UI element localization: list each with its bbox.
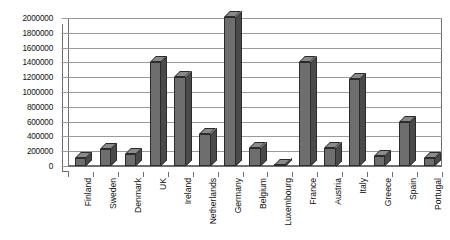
y-axis-tick-label: 1000000 bbox=[23, 88, 53, 97]
bar-front-face bbox=[125, 154, 136, 166]
bar bbox=[249, 142, 260, 166]
x-axis-tick bbox=[118, 172, 119, 177]
bar-side-face bbox=[311, 56, 317, 166]
y-axis-tick-label: 2000000 bbox=[23, 14, 53, 23]
y-axis-tick-label: 1800000 bbox=[23, 28, 53, 37]
bar-front-face bbox=[150, 62, 161, 166]
x-axis-label-finland: Finland bbox=[84, 178, 93, 206]
bar bbox=[150, 56, 161, 166]
y-axis-tick-label: 800000 bbox=[27, 102, 53, 111]
x-axis-tick bbox=[218, 172, 219, 177]
x-axis-label-netherlands: Netherlands bbox=[209, 178, 218, 224]
x-axis-label-uk: UK bbox=[159, 178, 168, 190]
x-axis-label-ireland: Ireland bbox=[184, 178, 193, 204]
bar-front-face bbox=[75, 158, 86, 166]
bar-side-face bbox=[161, 56, 167, 166]
y-axis-tick-label: 600000 bbox=[27, 117, 53, 126]
y-axis-tick-label: 200000 bbox=[27, 147, 53, 156]
bars-layer bbox=[62, 18, 442, 172]
x-axis-tick bbox=[442, 172, 443, 177]
bar-side-face bbox=[186, 71, 192, 166]
x-axis-tick bbox=[342, 172, 343, 177]
bar bbox=[399, 116, 410, 166]
plot-area bbox=[62, 18, 442, 172]
y-axis-tick-label: 400000 bbox=[27, 132, 53, 141]
x-axis-label-germany: Germany bbox=[234, 178, 243, 213]
bar-front-face bbox=[224, 17, 235, 166]
y-axis: 0200000400000600000800000100000012000001… bbox=[0, 0, 60, 240]
y-axis-tick-label: 1400000 bbox=[23, 58, 53, 67]
bar bbox=[199, 128, 210, 166]
bar bbox=[174, 71, 185, 166]
x-axis-tick bbox=[68, 172, 69, 177]
bar bbox=[75, 152, 86, 166]
bar-front-face bbox=[100, 149, 111, 166]
x-axis-tick bbox=[93, 172, 94, 177]
y-axis-tick-label: 1200000 bbox=[23, 73, 53, 82]
bar bbox=[299, 56, 310, 166]
bar-chart: 0200000400000600000800000100000012000001… bbox=[0, 0, 450, 240]
x-axis-label-belgium: Belgium bbox=[259, 178, 268, 209]
x-axis-ticks bbox=[68, 172, 442, 177]
bar-front-face bbox=[174, 77, 185, 166]
bar-front-face bbox=[274, 164, 285, 166]
x-axis-tick bbox=[267, 172, 268, 177]
bar-side-face bbox=[236, 11, 242, 166]
x-axis-tick bbox=[317, 172, 318, 177]
x-axis-label-denmark: Denmark bbox=[134, 178, 143, 213]
x-axis-tick bbox=[168, 172, 169, 177]
x-axis-label-italy: Italy bbox=[359, 178, 368, 194]
bar bbox=[274, 159, 285, 167]
bar bbox=[374, 150, 385, 166]
x-axis-tick bbox=[292, 172, 293, 177]
x-axis-label-portugal: Portugal bbox=[434, 178, 443, 210]
y-axis-tick-label: 1600000 bbox=[23, 43, 53, 52]
bar-front-face bbox=[249, 148, 260, 166]
bar-front-face bbox=[324, 148, 335, 167]
x-axis-tick bbox=[243, 172, 244, 177]
x-axis-tick bbox=[367, 172, 368, 177]
bar bbox=[100, 143, 111, 166]
bar-side-face bbox=[211, 128, 217, 166]
bar-side-face bbox=[360, 73, 366, 166]
x-axis-label-spain: Spain bbox=[409, 178, 418, 200]
bar-front-face bbox=[424, 158, 435, 166]
bar bbox=[125, 148, 136, 166]
x-axis-label-greece: Greece bbox=[384, 178, 393, 206]
x-axis-tick bbox=[193, 172, 194, 177]
bar bbox=[349, 73, 360, 166]
bar-front-face bbox=[199, 134, 210, 166]
x-axis-tick bbox=[143, 172, 144, 177]
x-axis-tick bbox=[392, 172, 393, 177]
bar-side-face bbox=[410, 116, 416, 166]
x-axis-label-france: France bbox=[309, 178, 318, 205]
x-axis-tick bbox=[417, 172, 418, 177]
bar-front-face bbox=[349, 79, 360, 166]
x-axis-label-sweden: Sweden bbox=[109, 178, 118, 209]
bar bbox=[424, 152, 435, 166]
bar-front-face bbox=[299, 62, 310, 166]
bar-front-face bbox=[374, 156, 385, 166]
bar-front-face bbox=[399, 122, 410, 166]
x-axis-label-luxembourg: Luxembourg bbox=[284, 178, 293, 226]
bar bbox=[224, 11, 235, 166]
bar bbox=[324, 142, 335, 167]
x-axis-label-austria: Austria bbox=[334, 178, 343, 205]
x-axis-labels: FinlandSwedenDenmarkUKIrelandNetherlands… bbox=[62, 178, 442, 240]
y-axis-tick-label: 0 bbox=[49, 162, 53, 171]
